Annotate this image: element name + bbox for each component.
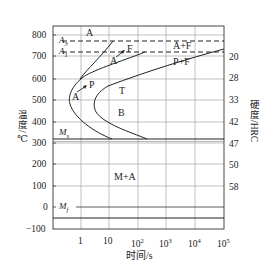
region-austenite: A — [86, 28, 93, 38]
hrc-tick-28: 28 — [229, 73, 239, 83]
hrc-tick-47: 47 — [229, 139, 239, 149]
y-left-axis-label: 温度/℃ — [17, 110, 27, 144]
ferrite-start-curve — [80, 41, 113, 79]
region-bainite: B — [118, 108, 125, 118]
y-tick-300: 300 — [32, 138, 46, 148]
hrc-tick-50: 50 — [229, 160, 239, 170]
x-tick-10000: 104 — [188, 236, 201, 249]
y-tick-400: 400 — [32, 117, 46, 127]
y-tick-200: 200 — [32, 159, 46, 169]
y-tick-500: 500 — [32, 95, 46, 105]
region-m-plus-a: M+A — [114, 172, 136, 182]
hrc-tick-20: 20 — [229, 52, 239, 62]
x-tick-100: 102 — [131, 236, 144, 249]
x-tick-1000: 103 — [159, 236, 172, 249]
label-a-to-p-a: A — [72, 92, 79, 102]
y-tick-minus100: −100 — [26, 224, 46, 234]
x-axis-label: 时间/s — [126, 251, 153, 261]
ms-label: Ms — [59, 127, 69, 141]
y-tick-800: 800 — [32, 30, 46, 40]
a1-label: A1 — [59, 46, 68, 60]
region-a-plus-f: A+F — [173, 41, 191, 51]
label-a-to-f-f: F — [127, 44, 133, 54]
region-p-plus-f: P+F — [173, 57, 190, 67]
hrc-tick-42: 42 — [229, 117, 239, 127]
label-a-to-p-p: P — [89, 80, 95, 90]
label-a-to-f-a: A — [110, 56, 117, 66]
y-tick-600: 600 — [32, 74, 46, 84]
y-tick-100: 100 — [32, 181, 46, 191]
hrc-tick-33: 33 — [229, 95, 239, 105]
y-tick-0: 0 — [43, 202, 48, 212]
ttt-diagram: 800 700 600 500 400 300 200 100 0 −100 温… — [0, 0, 266, 276]
y-right-axis-label: 硬度/HRC — [249, 100, 259, 142]
region-troostite: T — [119, 86, 125, 96]
x-tick-100000: 105 — [217, 236, 230, 249]
x-tick-10: 10 — [103, 236, 113, 246]
x-tick-1: 1 — [78, 236, 83, 246]
hrc-tick-58: 58 — [229, 182, 239, 192]
y-tick-700: 700 — [32, 51, 46, 61]
mf-label: Mf — [59, 201, 68, 215]
